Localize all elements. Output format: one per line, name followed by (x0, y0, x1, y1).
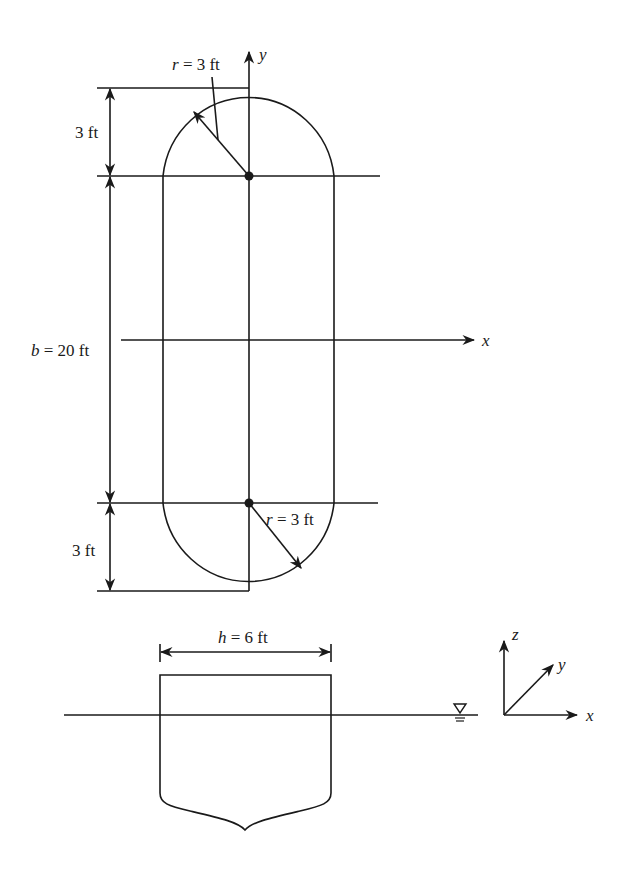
bottom-cap-dimension-label: 3 ft (72, 541, 95, 560)
diagram-canvas: r = 3 ft y 3 ft b = 20 ft x r = 3 ft 3 f… (0, 0, 631, 873)
axes-triad: z y x (504, 625, 594, 725)
triad-x-label: x (585, 706, 594, 725)
width-label: h = 6 ft (218, 628, 268, 647)
diagram-svg: r = 3 ft y 3 ft b = 20 ft x r = 3 ft 3 f… (0, 0, 631, 873)
y-axis-label: y (257, 45, 267, 64)
water-surface-icon (454, 704, 466, 721)
length-label: b = 20 ft (31, 341, 89, 360)
triad-y-label: y (556, 655, 566, 674)
top-radius-leader (212, 77, 218, 140)
x-axis-label: x (481, 331, 490, 350)
triad-y-axis (504, 665, 553, 715)
top-radius-arrow (194, 112, 249, 176)
top-cap-dimension-label: 3 ft (75, 123, 98, 142)
triad-z-label: z (511, 625, 519, 644)
bottom-radius-label: r = 3 ft (266, 510, 314, 529)
plan-view: r = 3 ft y 3 ft b = 20 ft x r = 3 ft 3 f… (31, 45, 490, 591)
hull-section-outline (160, 675, 331, 830)
top-radius-label: r = 3 ft (172, 55, 220, 74)
section-view: h = 6 ft (64, 628, 478, 830)
